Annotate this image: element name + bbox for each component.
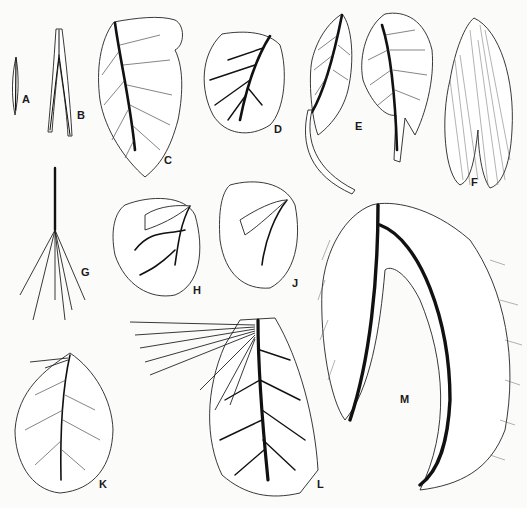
leaf-l-drawing [130,318,318,496]
label-g: G [81,266,90,278]
leaf-m-drawing [318,203,522,490]
label-m: M [400,393,409,405]
label-k: K [99,478,107,490]
figure-plate: A B C D E F G H J K L M [0,0,527,508]
leaf-e-left-drawing [305,14,355,194]
stalk-g-drawing [20,168,85,320]
leaf-e-right-drawing [362,13,433,162]
label-a: A [22,93,30,105]
label-l: L [317,478,324,490]
leaf-d-drawing [204,32,284,133]
leaf-b-drawing [48,29,72,136]
leaf-f-drawing [445,18,513,188]
leaf-h-drawing [113,198,200,296]
label-c: C [164,154,172,166]
label-j: J [292,277,298,289]
leaf-k-drawing [15,353,113,493]
label-f: F [471,176,478,188]
leaf-j-drawing [219,182,297,288]
label-b: B [77,109,85,121]
label-d: D [274,123,282,135]
label-h: H [193,284,201,296]
leaf-a-drawing [12,57,18,115]
leaf-illustrations [0,0,527,508]
label-e: E [355,120,362,132]
